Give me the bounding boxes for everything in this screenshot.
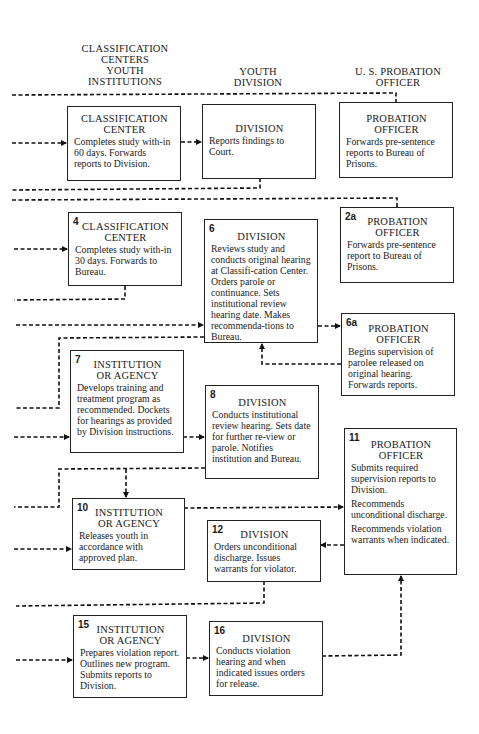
box-6a-probation-officer: 6a PROBATION OFFICER Begins supervision … [341, 313, 455, 396]
description-paragraph: Recommends violation warrants when indic… [351, 523, 451, 545]
box-4-classification-center: 4 CLASSIFICATION CENTER Completes study … [68, 212, 182, 286]
box-description: Conducts institutional review hearing. S… [212, 409, 313, 464]
step-number: 16 [214, 625, 225, 636]
box-title: INSTITUTION OR AGENCY [80, 624, 181, 646]
box-16-division-violation-hearing: 16 DIVISION Conducts violation hearing a… [209, 621, 323, 696]
title-line: INSTITUTION [77, 359, 178, 370]
box-11-probation-officer-supervision: 11 PROBATION OFFICER Submits required su… [344, 428, 457, 575]
title-line: INSTITUTION [79, 507, 179, 518]
header-line: OFFICER [338, 77, 458, 88]
title-line: OR AGENCY [80, 635, 181, 646]
title-line: DIVISION [216, 633, 317, 644]
step-number: 6 [209, 223, 215, 234]
step-number: 10 [77, 502, 88, 513]
step-number: 11 [349, 432, 360, 443]
box-description: Completes study with-in 30 days. Forward… [75, 244, 176, 277]
box-description: Begins supervision of parolee released o… [348, 346, 449, 390]
title-line: CLASSIFICATION [74, 113, 175, 124]
box-12-division-discharge: 12 DIVISION Orders unconditional dischar… [207, 520, 321, 582]
step-number: 4 [73, 216, 79, 227]
box-description: Forwards pre-sentence report to Bureau o… [347, 239, 448, 272]
title-line: PROBATION [347, 216, 448, 227]
box-description: Reviews study and conducts original hear… [211, 243, 312, 342]
box-description: Develops training and treatment program … [77, 382, 178, 437]
title-line: CENTER [74, 124, 175, 135]
box-probation-officer-presentence: PROBATION OFFICER Forwards pre-sentence … [339, 102, 453, 178]
box-description: Orders unconditional discharge. Issues w… [214, 541, 315, 574]
column-header-classification: CLASSIFICATION CENTERS YOUTH INSTITUTION… [60, 43, 190, 87]
title-line: OFFICER [351, 450, 451, 461]
title-line: INSTITUTION [80, 624, 181, 635]
title-line: DIVISION [214, 529, 315, 540]
step-number: 12 [212, 524, 223, 535]
box-description: Prepares violation report. Outlines new … [80, 647, 181, 691]
box-title: CLASSIFICATION CENTER [75, 221, 176, 243]
header-line: DIVISION [208, 77, 308, 88]
description-paragraph: Recommends unconditional discharge. [351, 498, 451, 520]
box-description: Reports findings to Court. [209, 135, 310, 157]
title-line: CLASSIFICATION [75, 221, 176, 232]
box-title: PROBATION OFFICER [348, 323, 449, 345]
box-8-division-institutional-review: 8 DIVISION Conducts institutional review… [205, 385, 319, 479]
box-title: DIVISION [214, 529, 315, 540]
box-title: DIVISION [212, 397, 313, 408]
box-title: PROBATION OFFICER [351, 439, 451, 461]
step-number: 15 [78, 619, 89, 630]
title-line: PROBATION [346, 113, 447, 124]
box-title: DIVISION [211, 231, 312, 242]
box-title: INSTITUTION OR AGENCY [79, 507, 179, 529]
box-6-division-original-hearing: 6 DIVISION Reviews study and conducts or… [204, 219, 318, 343]
box-description: Conducts violation hearing and when indi… [216, 645, 317, 689]
box-description: Submits required supervision reports to … [351, 462, 451, 545]
box-2a-probation-officer: 2a PROBATION OFFICER Forwards pre-senten… [340, 207, 454, 283]
title-line: PROBATION [351, 439, 451, 450]
header-line: INSTITUTIONS [60, 76, 190, 87]
header-line: U. S. PROBATION [338, 66, 458, 77]
title-line: PROBATION [348, 323, 449, 334]
title-line: OFFICER [348, 334, 449, 345]
step-number: 2a [345, 211, 356, 222]
title-line: DIVISION [212, 397, 313, 408]
title-line: DIVISION [211, 231, 312, 242]
header-line: CLASSIFICATION [60, 43, 190, 54]
box-7-institution-or-agency: 7 INSTITUTION OR AGENCY Develops trainin… [70, 350, 184, 453]
box-classification-center-60-days: CLASSIFICATION CENTER Completes study wi… [67, 106, 181, 181]
step-number: 6a [346, 317, 357, 328]
box-title: PROBATION OFFICER [346, 113, 447, 135]
box-title: DIVISION [216, 633, 317, 644]
column-header-youth-division: YOUTH DIVISION [208, 66, 308, 88]
box-title: INSTITUTION OR AGENCY [77, 359, 178, 381]
header-line: YOUTH [60, 65, 190, 76]
title-line: OR AGENCY [77, 370, 178, 381]
header-line: CENTERS [60, 54, 190, 65]
title-line: CENTER [75, 232, 176, 243]
box-10-institution-releases-youth: 10 INSTITUTION OR AGENCY Releases youth … [72, 498, 185, 570]
box-description: Completes study with-in 60 days. Forward… [74, 136, 175, 169]
title-line: DIVISION [209, 123, 310, 134]
header-line: YOUTH [208, 66, 308, 77]
box-description: Releases youth in accordance with approv… [79, 530, 179, 563]
step-number: 8 [210, 389, 216, 400]
title-line: OFFICER [347, 227, 448, 238]
title-line: OFFICER [346, 124, 447, 135]
title-line: OR AGENCY [79, 518, 179, 529]
box-title: CLASSIFICATION CENTER [74, 113, 175, 135]
box-division-reports-findings: DIVISION Reports findings to Court. [202, 104, 316, 179]
box-title: DIVISION [209, 123, 310, 134]
box-title: PROBATION OFFICER [347, 216, 448, 238]
column-header-probation-officer: U. S. PROBATION OFFICER [338, 66, 458, 88]
step-number: 7 [75, 354, 81, 365]
box-15-institution-violation-report: 15 INSTITUTION OR AGENCY Prepares violat… [73, 615, 187, 698]
description-paragraph: Submits required supervision reports to … [351, 462, 451, 495]
box-description: Forwards pre-sentence reports to Bureau … [346, 136, 447, 169]
